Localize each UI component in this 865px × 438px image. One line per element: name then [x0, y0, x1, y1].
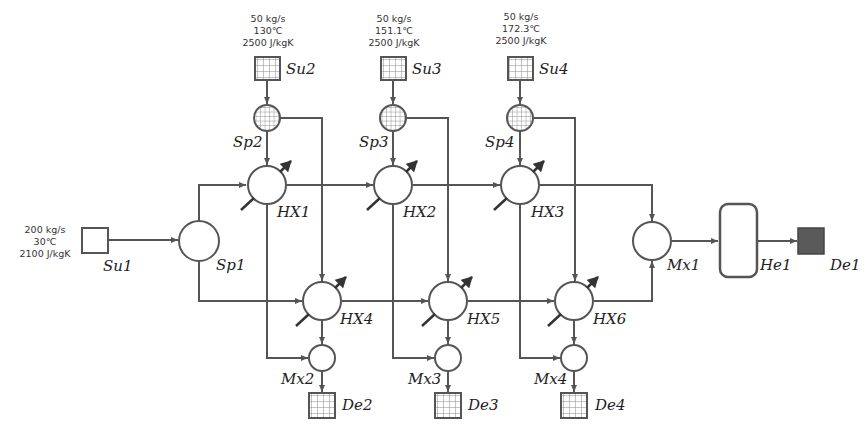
- heat-exchanger-hx5: [422, 277, 472, 326]
- source-su2-info: 50 kg/s 130℃ 2500 J/kgK: [233, 13, 303, 49]
- heat-exchanger-hx6: [548, 277, 598, 326]
- label-de1: De1: [830, 258, 860, 273]
- label-hx4: HX4: [340, 312, 373, 327]
- su1-heat-capacity: 2100 J/kgK: [14, 248, 76, 260]
- su4-flow: 50 kg/s: [486, 11, 556, 23]
- demand-de2-box: [309, 393, 335, 418]
- heat-exchanger-hx4: [296, 277, 346, 326]
- mixer-mx2: [309, 345, 335, 371]
- label-he1: He1: [760, 258, 792, 273]
- label-sp4: Sp4: [485, 135, 514, 150]
- su2-heat-capacity: 2500 J/kgK: [233, 37, 303, 49]
- label-de4: De4: [595, 398, 625, 413]
- source-su4-box: [508, 57, 533, 80]
- label-sp3: Sp3: [359, 135, 388, 150]
- label-mx4: Mx4: [534, 372, 567, 387]
- source-su3-info: 50 kg/s 151.1℃ 2500 J/kgK: [359, 13, 429, 49]
- label-su1: Su1: [103, 259, 132, 274]
- label-su3: Su3: [412, 62, 441, 77]
- label-mx3: Mx3: [408, 372, 441, 387]
- source-su3-box: [381, 57, 406, 80]
- splitter-sp3: [380, 105, 406, 131]
- su4-temperature: 172.3℃: [486, 23, 556, 35]
- label-hx5: HX5: [467, 312, 500, 327]
- su3-heat-capacity: 2500 J/kgK: [359, 37, 429, 49]
- label-mx2: Mx2: [281, 372, 314, 387]
- source-su1-box: [82, 228, 108, 253]
- demand-de4-box: [561, 393, 587, 418]
- label-hx6: HX6: [593, 312, 626, 327]
- su1-flow: 200 kg/s: [14, 224, 76, 236]
- source-su2-box: [255, 57, 280, 80]
- demand-de3-box: [435, 393, 461, 418]
- label-mx1: Mx1: [667, 258, 700, 273]
- demand-de1-box: [798, 228, 824, 254]
- splitter-sp4: [507, 105, 533, 131]
- splitter-sp2: [254, 105, 280, 131]
- label-sp1: Sp1: [216, 258, 245, 273]
- su3-flow: 50 kg/s: [359, 13, 429, 25]
- heater-he1: [720, 204, 757, 277]
- label-hx2: HX2: [403, 205, 436, 220]
- su1-temperature: 30℃: [14, 236, 76, 248]
- label-sp2: Sp2: [233, 135, 262, 150]
- label-hx3: HX3: [531, 205, 564, 220]
- label-hx1: HX1: [277, 205, 310, 220]
- label-su4: Su4: [539, 62, 568, 77]
- su2-flow: 50 kg/s: [233, 13, 303, 25]
- source-su4-info: 50 kg/s 172.3℃ 2500 J/kgK: [486, 11, 556, 47]
- label-de2: De2: [342, 398, 372, 413]
- label-su2: Su2: [286, 62, 315, 77]
- label-de3: De3: [468, 398, 498, 413]
- mixer-mx3: [435, 345, 461, 371]
- su3-temperature: 151.1℃: [359, 25, 429, 37]
- mixer-mx4: [561, 345, 587, 371]
- splitter-sp1: [179, 221, 219, 261]
- mixer-mx1: [633, 222, 671, 260]
- su2-temperature: 130℃: [233, 25, 303, 37]
- source-su1-info: 200 kg/s 30℃ 2100 J/kgK: [14, 224, 76, 260]
- su4-heat-capacity: 2500 J/kgK: [486, 35, 556, 47]
